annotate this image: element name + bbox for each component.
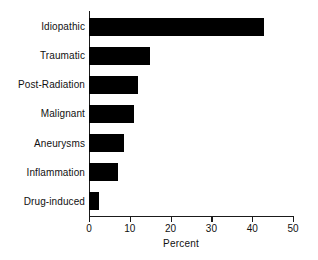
tick-label: 10 [124,223,135,234]
bar-row [89,12,293,41]
x-axis-title: Percent [0,238,318,249]
bar-chart: IdiopathicTraumaticPost-RadiationMaligna… [0,0,318,260]
category-label: Traumatic [40,41,85,70]
bar-row [89,41,293,70]
bar-series [89,12,293,216]
bar [89,105,134,123]
category-label: Drug-induced [24,187,85,216]
bar [89,76,138,94]
tick-label: 20 [165,223,176,234]
tick-mark [89,217,90,222]
plot-area [89,12,293,216]
bar-row [89,70,293,99]
bar [89,134,124,152]
bar [89,18,264,36]
category-label: Post-Radiation [18,70,85,99]
tick-label: 0 [86,223,92,234]
category-label: Inflammation [27,158,85,187]
x-axis-title-text: Percent [163,238,199,249]
tick-mark [252,217,253,222]
bar-row [89,99,293,128]
bar [89,47,150,65]
bar-row [89,129,293,158]
tick-mark [293,217,294,222]
tick-mark [171,217,172,222]
category-label: Idiopathic [41,12,85,41]
category-axis-labels: IdiopathicTraumaticPost-RadiationMaligna… [0,12,85,216]
bar-row [89,187,293,216]
tick-label: 50 [287,223,298,234]
tick-mark [130,217,131,222]
bar [89,192,99,210]
tick-label: 40 [247,223,258,234]
tick-label: 30 [206,223,217,234]
category-label: Malignant [41,99,85,128]
category-label: Aneurysms [34,129,85,158]
bar [89,163,118,181]
bar-row [89,158,293,187]
tick-mark [211,217,212,222]
x-axis-ticks: 01020304050 [0,217,318,237]
